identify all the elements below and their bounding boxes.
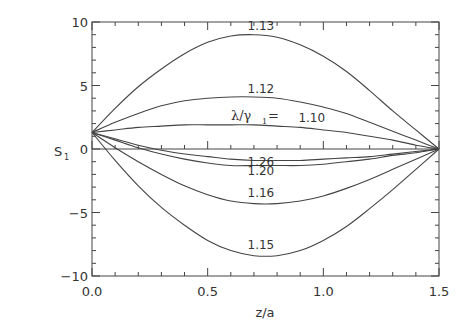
x-tick-label: 0.5 xyxy=(197,284,218,299)
x-tick-label: 0.0 xyxy=(82,284,103,299)
curve-label-1-20: 1.20 xyxy=(248,164,275,178)
lambda-annotation-subscript: 1 xyxy=(262,117,267,126)
y-tick-label: −5 xyxy=(69,206,88,221)
y-tick-label: 10 xyxy=(71,15,88,30)
curve-label-1-10: 1.10 xyxy=(298,111,325,125)
line-chart: 0.00.51.01.51050−5−10 1.131.121.101.261.… xyxy=(0,0,470,332)
y-tick-label: −10 xyxy=(61,269,88,284)
y-axis-label-main: S xyxy=(54,144,62,159)
curve-label-1-13: 1.13 xyxy=(248,19,275,33)
y-tick-label: 5 xyxy=(80,79,88,94)
y-tick-label: 0 xyxy=(80,142,88,157)
lambda-annotation-text: λ/γ xyxy=(231,108,252,123)
lambda-annotation-equals: = xyxy=(268,108,279,123)
x-axis-label: z/a xyxy=(255,305,274,320)
curves xyxy=(92,35,439,257)
curve-label-1-12: 1.12 xyxy=(248,82,275,96)
x-tick-label: 1.0 xyxy=(313,284,334,299)
lambda-annotation: λ/γ 1 = xyxy=(231,108,279,126)
y-axis-label: S 1 xyxy=(54,144,69,162)
curve-label-1-15: 1.15 xyxy=(248,238,275,252)
curve-label-1-16: 1.16 xyxy=(248,186,275,200)
y-axis-label-subscript: 1 xyxy=(64,153,69,162)
curve-labels: 1.131.121.101.261.201.161.15 xyxy=(248,19,326,252)
x-tick-label: 1.5 xyxy=(429,284,450,299)
